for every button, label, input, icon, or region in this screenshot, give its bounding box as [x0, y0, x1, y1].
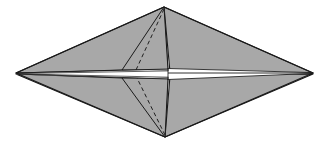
origami-fold-diagram	[0, 0, 331, 150]
